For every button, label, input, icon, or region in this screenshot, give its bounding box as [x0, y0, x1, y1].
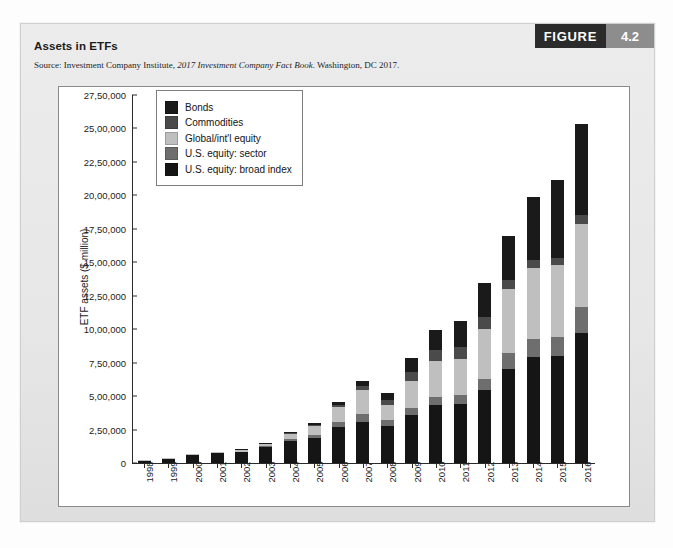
bar-segment — [551, 265, 564, 337]
source-italic-title: 2017 Investment Company Fact Book — [177, 60, 312, 70]
stacked-bar[interactable] — [429, 330, 442, 463]
stacked-bar[interactable] — [284, 432, 297, 463]
y-tick-label: 0 — [121, 458, 132, 469]
figure-source: Source: Investment Company Institute, 20… — [34, 60, 399, 70]
stacked-bar[interactable] — [502, 236, 515, 463]
bar-slot: 2007 — [351, 95, 375, 463]
stacked-bar[interactable] — [478, 283, 491, 463]
bar-segment — [356, 422, 369, 463]
y-tick-label: 20,00,000 — [84, 190, 132, 201]
stacked-bar[interactable] — [405, 358, 418, 463]
y-tick-label: 22,50,000 — [84, 156, 132, 167]
bar-segment — [478, 390, 491, 463]
bar-segment — [332, 407, 345, 422]
x-tick-label: 2010 — [436, 461, 447, 482]
bar-segment — [454, 404, 467, 463]
legend-label: U.S. equity: broad index — [185, 164, 292, 175]
x-tick-label: 2002 — [241, 461, 252, 482]
stacked-bar[interactable] — [356, 381, 369, 463]
legend-item[interactable]: Bonds — [165, 101, 292, 114]
legend-label: Commodities — [185, 117, 243, 128]
x-tick-label: 2012 — [485, 461, 496, 482]
stacked-bar[interactable] — [381, 393, 394, 464]
x-tick-label: 2001 — [217, 461, 228, 482]
bar-slot: 2008 — [375, 95, 399, 463]
bar-slot: 2015 — [545, 95, 569, 463]
bar-segment — [429, 397, 442, 405]
bar-segment — [405, 381, 418, 408]
x-tick-label: 2016 — [582, 461, 593, 482]
bar-segment — [454, 347, 467, 359]
bar-segment — [405, 415, 418, 463]
x-tick-label: 2006 — [339, 461, 350, 482]
source-suffix: . Washington, DC 2017. — [313, 60, 400, 70]
bar-slot: 1998 — [132, 95, 156, 463]
legend-rows: BondsCommoditiesGlobal/int'l equityU.S. … — [165, 101, 292, 176]
bar-segment — [356, 414, 369, 421]
x-tick-label: 2014 — [533, 461, 544, 482]
x-tick-label: 1999 — [168, 461, 179, 482]
bar-segment — [551, 180, 564, 258]
bar-segment — [527, 197, 540, 260]
bar-segment — [575, 215, 588, 224]
legend-item[interactable]: U.S. equity: broad index — [165, 163, 292, 176]
y-axis-label: ETF assets ($ million) — [79, 228, 90, 325]
y-tick-label: 12,50,000 — [84, 290, 132, 301]
legend-swatch — [165, 147, 178, 160]
figure-badge-word: FIGURE — [535, 24, 606, 48]
legend-swatch — [165, 163, 178, 176]
legend-item[interactable]: Commodities — [165, 116, 292, 129]
chart-legend: BondsCommoditiesGlobal/int'l equityU.S. … — [156, 90, 303, 186]
stacked-bar[interactable] — [259, 443, 272, 463]
bar-slot: 2014 — [521, 95, 545, 463]
y-tick-label: 15,00,000 — [84, 257, 132, 268]
bar-segment — [502, 353, 515, 369]
x-tick-label: 1998 — [144, 461, 155, 482]
bar-segment — [405, 408, 418, 415]
bar-segment — [575, 307, 588, 332]
y-tick-label: 5,00,000 — [89, 391, 132, 402]
bar-segment — [502, 369, 515, 463]
x-tick-label: 2007 — [363, 461, 374, 482]
bar-segment — [551, 356, 564, 463]
stacked-bar[interactable] — [454, 321, 467, 463]
bar-segment — [381, 405, 394, 420]
x-tick-label: 2011 — [460, 462, 471, 482]
x-tick-label: 2004 — [290, 461, 301, 482]
bar-segment — [284, 441, 297, 463]
bar-segment — [527, 268, 540, 339]
x-tick-label: 2013 — [509, 461, 520, 482]
figure-badge-number: 4.2 — [606, 24, 654, 48]
bar-segment — [502, 289, 515, 353]
bar-slot: 2013 — [497, 95, 521, 463]
bar-segment — [381, 426, 394, 463]
legend-swatch — [165, 132, 178, 145]
bar-segment — [575, 224, 588, 307]
bar-segment — [429, 405, 442, 463]
stacked-bar[interactable] — [575, 124, 588, 463]
x-tick-label: 2015 — [557, 461, 568, 482]
bar-segment — [478, 283, 491, 316]
bar-slot: 2005 — [302, 95, 326, 463]
legend-item[interactable]: Global/int'l equity — [165, 132, 292, 145]
bar-segment — [575, 124, 588, 214]
bar-segment — [454, 359, 467, 395]
bar-segment — [356, 390, 369, 414]
y-tick-label: 25,00,000 — [84, 123, 132, 134]
y-tick-label: 27,50,000 — [84, 90, 132, 101]
bar-segment — [551, 337, 564, 356]
bar-segment — [429, 361, 442, 397]
x-tick-label: 2000 — [193, 461, 204, 482]
stacked-bar[interactable] — [527, 197, 540, 463]
stacked-bar[interactable] — [332, 402, 345, 463]
bar-segment — [429, 330, 442, 349]
bar-segment — [502, 280, 515, 289]
bar-segment — [332, 427, 345, 463]
bar-segment — [454, 321, 467, 347]
legend-item[interactable]: U.S. equity: sector — [165, 147, 292, 160]
bar-slot: 2016 — [570, 95, 594, 463]
stacked-bar[interactable] — [308, 423, 321, 463]
bar-slot: 2011 — [448, 95, 472, 463]
stacked-bar[interactable] — [551, 180, 564, 463]
x-tick-label: 2005 — [314, 461, 325, 482]
